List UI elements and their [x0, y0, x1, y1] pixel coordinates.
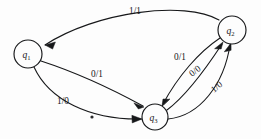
state-subscript-q1: 1 — [27, 54, 30, 61]
state-diagram-canvas: q1 q2 q3 1/1 0/1 1/0 0/1 0/0 1/0 — [0, 0, 261, 139]
edge-label-q1-to-q3-upper: 0/1 — [91, 69, 103, 79]
arrowhead-into-q2-middle — [215, 42, 223, 49]
edge-label-q2-to-q3: 0/1 — [174, 52, 186, 62]
edge-label-q2-to-q1: 1/1 — [129, 6, 141, 16]
state-diagram-graphic: q1 q2 q3 1/1 0/1 1/0 0/1 0/0 1/0 — [0, 0, 261, 139]
state-subscript-q2: 2 — [231, 30, 234, 37]
edge-label-q1-to-q3-lower: 1/0 — [57, 96, 69, 106]
arrowhead-into-q3-from-q2-b — [162, 99, 169, 106]
arrowhead-into-q1 — [45, 42, 55, 49]
state-node-q2[interactable]: q2 — [218, 16, 246, 44]
edge-path-q1-to-q3-lower — [34, 67, 141, 119]
state-node-q3[interactable]: q3 — [142, 104, 168, 130]
edge-q2-to-q1 — [45, 10, 219, 49]
arrowhead-into-q3-lower — [132, 115, 142, 123]
state-node-q1[interactable]: q1 — [14, 40, 42, 68]
scan-speck-artifact — [90, 115, 93, 118]
edge-q1-to-q3-lower — [34, 67, 142, 123]
